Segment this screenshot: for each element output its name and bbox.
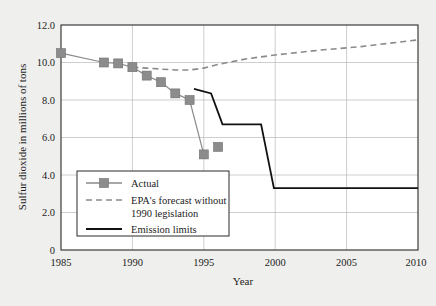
x-tick-label-2010: 2010 bbox=[406, 257, 427, 268]
x-tick-label-1985: 1985 bbox=[51, 257, 72, 268]
y-tick-label-2: 2.0 bbox=[42, 207, 55, 218]
chart-figure: 12.0 10.0 8.0 6.0 4.0 2.0 0 1985 1990 19… bbox=[0, 0, 436, 306]
x-tick-label-1990: 1990 bbox=[122, 257, 143, 268]
y-tick-label-8: 8.0 bbox=[42, 95, 55, 106]
sulfur-dioxide-line-chart: 12.0 10.0 8.0 6.0 4.0 2.0 0 1985 1990 19… bbox=[0, 0, 436, 306]
y-tick-label-10: 10.0 bbox=[37, 57, 55, 68]
y-tick-label-0: 0 bbox=[50, 245, 55, 256]
y-tick-label-12: 12.0 bbox=[37, 20, 55, 31]
y-tick-label-6: 6.0 bbox=[42, 132, 55, 143]
legend-label-emission-limits: Emission limits bbox=[131, 224, 197, 235]
chart-legend: Actual EPA's forecast without 1990 legis… bbox=[77, 171, 229, 236]
x-axis-title: Year bbox=[233, 275, 254, 287]
series-actual-marker-1996 bbox=[214, 142, 223, 151]
legend-label-epa-forecast-line1: EPA's forecast without bbox=[131, 195, 226, 206]
y-axis-tick-labels: 12.0 10.0 8.0 6.0 4.0 2.0 0 bbox=[37, 20, 55, 256]
y-tick-label-4: 4.0 bbox=[42, 170, 55, 181]
legend-marker-square-icon bbox=[100, 179, 109, 188]
legend-label-epa-forecast-line2: 1990 legislation bbox=[131, 208, 199, 219]
x-axis-tick-labels: 1985 1990 1995 2000 2005 2010 bbox=[51, 257, 427, 268]
x-tick-label-2005: 2005 bbox=[336, 257, 357, 268]
x-tick-label-2000: 2000 bbox=[265, 257, 286, 268]
legend-label-actual: Actual bbox=[131, 178, 159, 189]
y-axis-title: Sulfur dioxide in millions of tons bbox=[16, 64, 28, 210]
x-tick-label-1995: 1995 bbox=[193, 257, 214, 268]
